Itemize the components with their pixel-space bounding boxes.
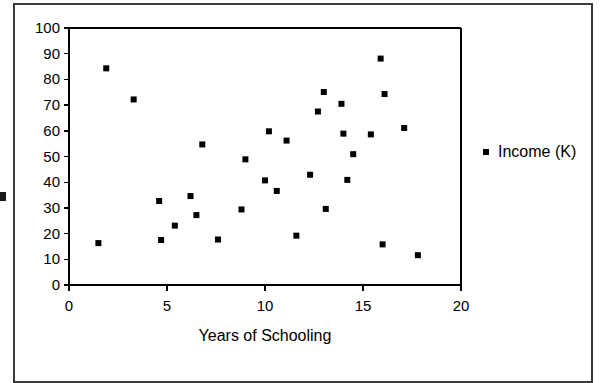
data-point-marker	[193, 212, 199, 218]
data-point-marker	[266, 128, 272, 134]
y-tick-label: 60	[26, 123, 60, 138]
data-point-marker	[340, 131, 346, 137]
data-point-marker	[103, 65, 109, 71]
data-point-marker	[380, 241, 386, 247]
plot-frame	[69, 28, 461, 285]
data-point-marker	[350, 151, 356, 157]
data-point-marker	[199, 141, 205, 147]
legend-marker-icon	[483, 149, 489, 155]
x-tick-label: 10	[248, 298, 282, 313]
x-tick-label: 15	[346, 298, 380, 313]
data-point-marker	[368, 131, 374, 137]
data-point-marker	[95, 240, 101, 246]
data-point-marker	[307, 172, 313, 178]
data-point-marker	[382, 91, 388, 97]
data-point-marker	[323, 206, 329, 212]
data-point-marker	[131, 96, 137, 102]
data-point-marker	[172, 223, 178, 229]
data-point-marker	[215, 237, 221, 243]
y-tick-label: 70	[26, 97, 60, 112]
data-points	[95, 56, 420, 259]
data-point-marker	[158, 237, 164, 243]
y-tick-label: 10	[26, 251, 60, 266]
data-point-marker	[274, 188, 280, 194]
y-tick-label: 100	[26, 20, 60, 35]
legend: Income (K)	[483, 143, 576, 161]
x-axis-title: Years of Schooling	[110, 327, 420, 345]
y-tick-label: 20	[26, 226, 60, 241]
y-tick-label: 0	[26, 277, 60, 292]
data-point-marker	[378, 56, 384, 62]
axis-ticks	[64, 28, 461, 291]
y-tick-label: 90	[26, 46, 60, 61]
data-point-marker	[238, 206, 244, 212]
data-point-marker	[315, 109, 321, 115]
data-point-marker	[262, 177, 268, 183]
data-point-marker	[188, 193, 194, 199]
data-point-marker	[344, 177, 350, 183]
data-point-marker	[338, 101, 344, 107]
data-point-marker	[284, 138, 290, 144]
x-tick-label: 20	[444, 298, 478, 313]
legend-label: Income (K)	[498, 143, 576, 161]
y-tick-label: 40	[26, 174, 60, 189]
x-tick-label: 0	[52, 298, 86, 313]
data-point-marker	[321, 89, 327, 95]
y-tick-label: 30	[26, 200, 60, 215]
data-point-marker	[156, 198, 162, 204]
data-point-marker	[401, 125, 407, 131]
y-tick-label: 50	[26, 149, 60, 164]
data-point-marker	[415, 252, 421, 258]
x-tick-label: 5	[150, 298, 184, 313]
data-point-marker	[242, 156, 248, 162]
y-tick-label: 80	[26, 71, 60, 86]
data-point-marker	[293, 233, 299, 239]
